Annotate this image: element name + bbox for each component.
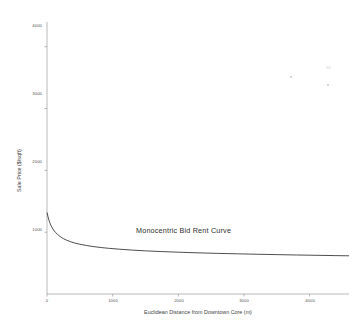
y-tick-label: 2000 bbox=[22, 159, 42, 164]
tick-marks bbox=[45, 47, 310, 297]
paper-speck bbox=[290, 76, 292, 78]
y-axis-title: Sale Price ($/sqft) bbox=[16, 149, 22, 192]
x-tick-label: 2000 bbox=[169, 298, 189, 303]
x-axis-title: Euclidean Distance from Downtown Core (m… bbox=[98, 309, 298, 315]
curve-annotation: Monocentric Bid Rent Curve bbox=[136, 226, 231, 235]
y-tick-label: 1000 bbox=[22, 227, 42, 232]
y-tick-label: 4000 bbox=[22, 23, 42, 28]
y-tick-label: 3000 bbox=[22, 91, 42, 96]
paper-speck bbox=[326, 66, 331, 69]
x-tick-label: 0 bbox=[37, 298, 57, 303]
bid-rent-chart-svg bbox=[0, 0, 361, 323]
x-tick-label: 1000 bbox=[103, 298, 123, 303]
paper-speck bbox=[327, 84, 329, 86]
x-tick-label: 4000 bbox=[300, 298, 320, 303]
x-tick-label: 3000 bbox=[234, 298, 254, 303]
chart-container: 4000 3000 2000 1000 0 1000 2000 3000 400… bbox=[0, 0, 361, 323]
